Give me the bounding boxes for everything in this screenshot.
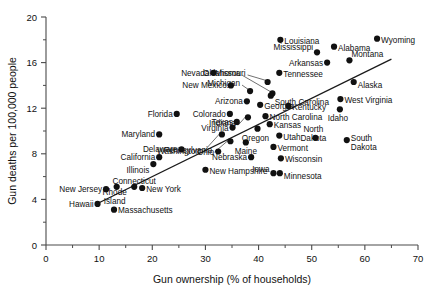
data-point bbox=[227, 111, 233, 117]
data-point-label: Illinois bbox=[127, 166, 150, 175]
data-point bbox=[262, 113, 268, 119]
data-point bbox=[94, 201, 100, 207]
x-tick-label: 40 bbox=[253, 253, 264, 264]
data-point-label: Wyoming bbox=[381, 36, 415, 45]
data-point-label: Kansas bbox=[274, 121, 301, 130]
data-point-label: Mississippi bbox=[273, 43, 313, 52]
data-point-label: Oregon bbox=[242, 134, 270, 143]
y-tick-label: 12 bbox=[26, 103, 37, 114]
data-point bbox=[277, 37, 283, 43]
chart-canvas: HawaiiNew JerseyMassachusettsRhodeIsland… bbox=[0, 0, 430, 294]
data-point bbox=[276, 132, 282, 138]
data-point-label: Maine bbox=[235, 147, 258, 156]
data-point-label: New Mexico bbox=[182, 81, 227, 90]
data-point bbox=[337, 96, 343, 102]
data-point-label: Utah bbox=[283, 133, 301, 142]
y-tick-label: 16 bbox=[26, 57, 37, 68]
data-point bbox=[247, 88, 253, 94]
data-point-label: NorthDakota bbox=[300, 125, 326, 143]
data-point bbox=[314, 49, 320, 55]
data-point-label: Idaho bbox=[328, 114, 349, 123]
x-tick-label: 50 bbox=[306, 253, 317, 264]
x-axis-title: Gun ownership (% of households) bbox=[153, 273, 311, 285]
data-point bbox=[270, 144, 276, 150]
data-point bbox=[276, 70, 282, 76]
data-point bbox=[202, 167, 208, 173]
data-point bbox=[245, 114, 251, 120]
y-axis-title: Gun deaths per 100,000 people bbox=[6, 57, 18, 205]
x-tick-label: 70 bbox=[413, 253, 424, 264]
data-point bbox=[174, 111, 180, 117]
data-point-label: North Carolina bbox=[269, 113, 322, 122]
data-point bbox=[374, 36, 380, 42]
data-point-label: New York bbox=[146, 185, 181, 194]
y-tick-label: 0 bbox=[32, 240, 37, 251]
data-point bbox=[344, 137, 350, 143]
x-tick-label: 0 bbox=[43, 253, 48, 264]
data-point-label: Massachusetts bbox=[118, 206, 173, 215]
data-point bbox=[278, 155, 284, 161]
data-point-label: Minnesota bbox=[284, 172, 322, 181]
data-point-label: RhodeIsland bbox=[103, 188, 128, 206]
data-point bbox=[270, 170, 276, 176]
x-tick-label: 20 bbox=[147, 253, 158, 264]
data-point-label: California bbox=[121, 153, 156, 162]
data-point-label: Tennessee bbox=[283, 70, 323, 79]
data-point-label: Indiana bbox=[209, 119, 236, 128]
data-point-label: Arkansas bbox=[289, 59, 323, 68]
data-point-label: Colorado bbox=[193, 110, 227, 119]
data-point-label: SouthDakota bbox=[351, 134, 377, 152]
data-point-label: Arizona bbox=[215, 97, 243, 106]
data-point bbox=[227, 138, 233, 144]
x-tick-label: 10 bbox=[94, 253, 105, 264]
data-point-label: Oklahoma bbox=[203, 69, 241, 78]
x-tick-label: 60 bbox=[360, 253, 371, 264]
data-point bbox=[156, 131, 162, 137]
x-tick-label: 30 bbox=[200, 253, 211, 264]
plot-area: HawaiiNew JerseyMassachusettsRhodeIsland… bbox=[59, 36, 415, 215]
data-point-label: New Jersey bbox=[59, 185, 103, 194]
data-point-label: West Virginia bbox=[344, 96, 392, 105]
data-point-label: Iowa bbox=[252, 165, 270, 174]
data-point bbox=[337, 106, 343, 112]
data-point bbox=[331, 44, 337, 50]
data-point-label: Wisconsin bbox=[285, 155, 323, 164]
data-point bbox=[244, 98, 250, 104]
data-point bbox=[111, 207, 117, 213]
data-point-label: South Carolina bbox=[275, 98, 330, 107]
data-point-label: Alaska bbox=[358, 81, 383, 90]
data-point bbox=[351, 79, 357, 85]
data-point bbox=[324, 60, 330, 66]
data-point bbox=[268, 93, 274, 99]
data-point bbox=[277, 170, 283, 176]
data-point-label: Hawaii bbox=[69, 200, 94, 209]
gun-deaths-vs-ownership-scatter-chart: HawaiiNew JerseyMassachusettsRhodeIsland… bbox=[0, 0, 430, 294]
data-point bbox=[265, 79, 271, 85]
y-tick-label: 20 bbox=[26, 12, 37, 23]
data-point-label: Vermont bbox=[277, 144, 308, 153]
data-point bbox=[254, 126, 260, 132]
data-point-label: Washington bbox=[157, 147, 200, 156]
data-point-label: Montana bbox=[351, 50, 383, 59]
data-point-label: Maryland bbox=[122, 130, 156, 139]
y-tick-label: 8 bbox=[32, 148, 37, 159]
y-tick-label: 4 bbox=[32, 194, 37, 205]
data-point bbox=[257, 102, 263, 108]
data-point-label: Florida bbox=[148, 110, 173, 119]
data-points-group bbox=[94, 36, 380, 213]
data-point-labels-group: HawaiiNew JerseyMassachusettsRhodeIsland… bbox=[59, 36, 415, 215]
